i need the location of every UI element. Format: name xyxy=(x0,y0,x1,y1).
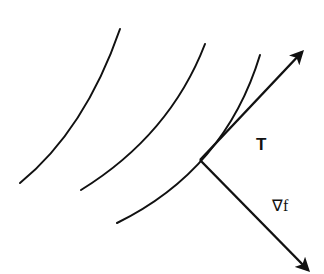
tangent-label: T xyxy=(256,135,266,155)
level-curve-1 xyxy=(20,29,120,183)
gradient-label: ∇f xyxy=(272,196,288,215)
tangent-vector-arrow xyxy=(200,52,302,160)
diagram-canvas xyxy=(0,0,324,274)
gradient-vector-arrow xyxy=(200,160,308,270)
level-curve-2 xyxy=(81,44,205,190)
